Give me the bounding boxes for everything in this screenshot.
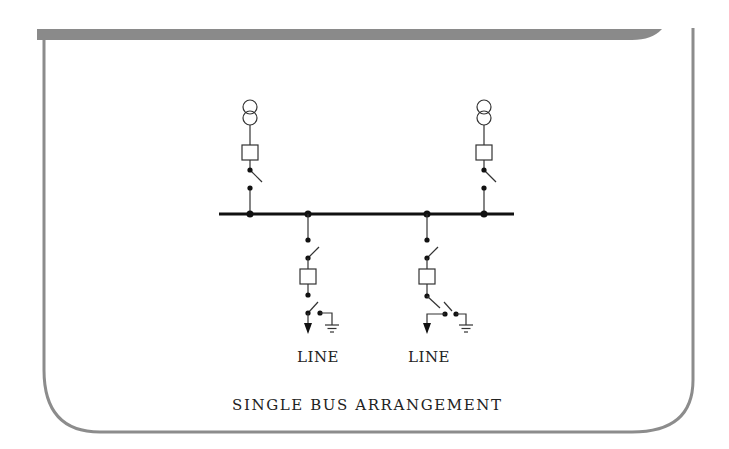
line-arrow-icon [304,323,312,334]
transformer-icon [477,100,491,114]
line-arrow-icon [423,323,431,334]
circuit-breaker-icon [300,269,316,284]
frame-top-bar [37,29,662,40]
ground-icon [459,325,473,332]
single-bus-diagram [0,0,729,449]
feeder-1-label: LINE [297,348,339,366]
switch-blade-icon [444,302,452,311]
source-bay-2 [476,100,496,218]
transformer-icon [243,100,257,114]
circuit-breaker-icon [476,145,492,160]
transformer-icon [477,111,491,125]
switch-blade-icon [427,296,440,308]
ground-icon [325,325,339,332]
circuit-breaker-icon [242,145,258,160]
feeder-bay-2 [419,211,473,335]
source-bay-1 [242,100,262,218]
frame-border [44,28,693,432]
diagram-caption: SINGLE BUS ARRANGEMENT [232,396,503,414]
frame [37,28,693,432]
feeder-2-label: LINE [408,348,450,366]
transformer-icon [243,111,257,125]
feeder-bay-1 [300,211,339,335]
circuit-breaker-icon [419,269,435,284]
